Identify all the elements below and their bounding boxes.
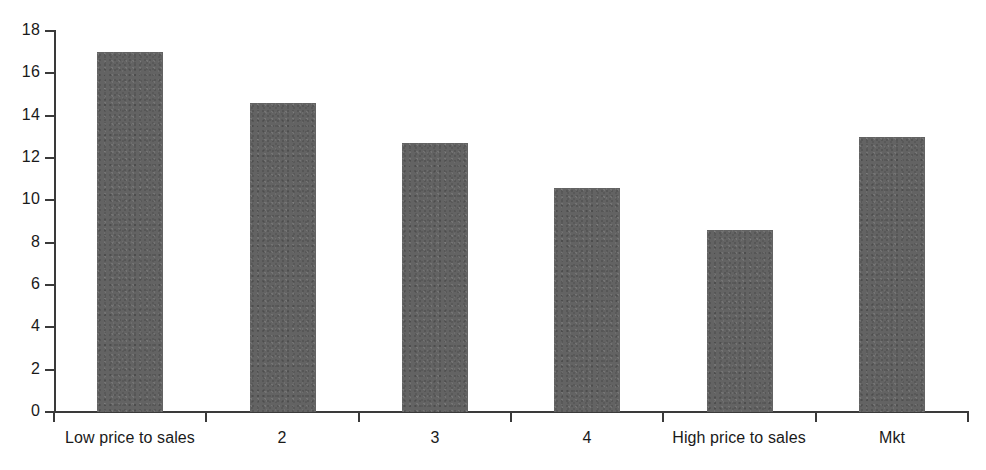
y-axis-tick-label: 16 bbox=[0, 64, 40, 80]
x-axis-category-label: 2 bbox=[206, 428, 358, 447]
x-axis-category-label: Low price to sales bbox=[54, 428, 206, 447]
y-axis-tick-label-text: 0 bbox=[2, 403, 40, 419]
y-axis-tick-label-text: 12 bbox=[2, 149, 40, 165]
y-axis-tick bbox=[45, 72, 54, 74]
y-axis-tick-label-text: 14 bbox=[2, 107, 40, 123]
bar[interactable] bbox=[859, 137, 925, 412]
y-axis-tick-label: 0 bbox=[0, 403, 40, 419]
y-axis-tick bbox=[45, 369, 54, 371]
x-axis-tick bbox=[967, 413, 969, 422]
bar[interactable] bbox=[707, 230, 773, 412]
y-axis-tick-label: 12 bbox=[0, 149, 40, 165]
y-axis-tick-label-text: 16 bbox=[2, 64, 40, 80]
y-axis-tick bbox=[45, 115, 54, 117]
y-axis-tick bbox=[45, 326, 54, 328]
y-axis-line bbox=[54, 30, 56, 413]
x-axis-tick bbox=[358, 413, 360, 422]
bar[interactable] bbox=[402, 143, 468, 412]
x-axis-category-label: 3 bbox=[359, 428, 511, 447]
y-axis-tick-label: 4 bbox=[0, 318, 40, 334]
x-axis-tick bbox=[662, 413, 664, 422]
y-axis-tick bbox=[45, 242, 54, 244]
bar[interactable] bbox=[97, 52, 163, 412]
y-axis-tick bbox=[45, 199, 54, 201]
y-axis-tick-label-text: 18 bbox=[2, 22, 40, 38]
y-axis-tick-label: 6 bbox=[0, 276, 40, 292]
y-axis-tick-label-text: 2 bbox=[2, 361, 40, 377]
y-axis-tick-label: 8 bbox=[0, 234, 40, 250]
y-axis-tick-label: 14 bbox=[0, 107, 40, 123]
y-axis-tick-label-text: 8 bbox=[2, 234, 40, 250]
bar[interactable] bbox=[554, 188, 620, 412]
x-axis-tick bbox=[205, 413, 207, 422]
x-axis-category-label: Mkt bbox=[816, 428, 968, 447]
y-axis-tick-label-text: 10 bbox=[2, 191, 40, 207]
y-axis-tick bbox=[45, 157, 54, 159]
y-axis-tick bbox=[45, 284, 54, 286]
x-axis-tick bbox=[53, 413, 55, 422]
y-axis-tick-label-text: 6 bbox=[2, 276, 40, 292]
x-axis-tick bbox=[815, 413, 817, 422]
x-axis-tick bbox=[510, 413, 512, 422]
y-axis-tick-label: 10 bbox=[0, 191, 40, 207]
bar-chart: 024681012141618 Low price to sales234Hig… bbox=[0, 0, 986, 470]
y-axis-tick-label: 18 bbox=[0, 22, 40, 38]
y-axis-tick-label-text: 4 bbox=[2, 318, 40, 334]
bar[interactable] bbox=[250, 103, 316, 412]
x-axis-category-label: 4 bbox=[511, 428, 663, 447]
y-axis-tick-label: 2 bbox=[0, 361, 40, 377]
x-axis-category-label: High price to sales bbox=[663, 428, 815, 447]
y-axis-tick bbox=[45, 30, 54, 32]
